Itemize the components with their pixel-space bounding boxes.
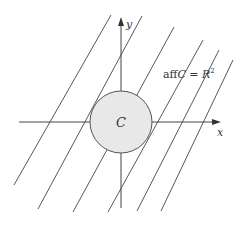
y-axis-label: y bbox=[125, 18, 133, 31]
affine-hull-diagram: C y x affC = R2 bbox=[0, 0, 244, 226]
aff-operator: aff bbox=[163, 68, 179, 81]
x-axis-arrow-icon bbox=[212, 119, 221, 125]
x-axis-label: x bbox=[217, 126, 224, 139]
aff-space: R bbox=[201, 68, 210, 81]
y-axis-arrow-icon bbox=[118, 17, 124, 26]
aff-exponent: 2 bbox=[210, 67, 214, 75]
aff-equals: = bbox=[186, 68, 202, 81]
set-c-label: C bbox=[116, 115, 126, 130]
affine-hull-annotation: affC = R2 bbox=[163, 67, 215, 81]
